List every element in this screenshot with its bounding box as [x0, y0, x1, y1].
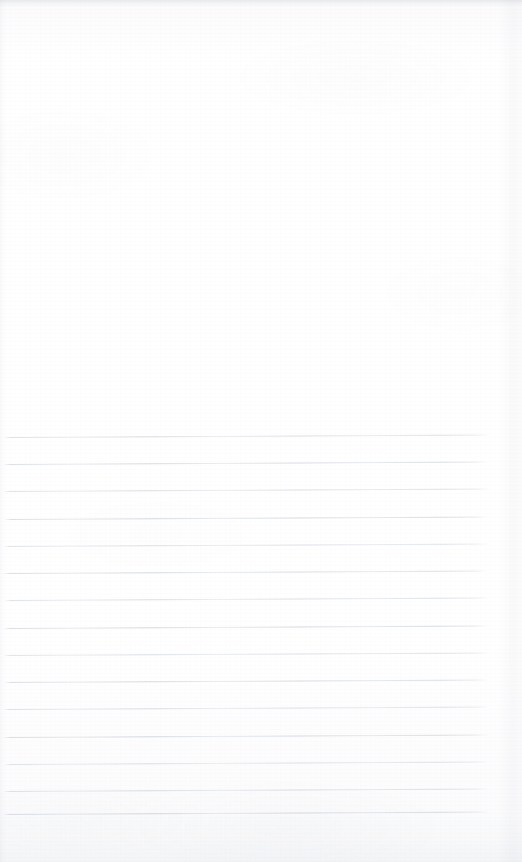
ruled-line — [4, 597, 490, 601]
scan-page-edge-right — [498, 0, 522, 862]
ruled-lines-area — [0, 0, 522, 862]
ruled-line — [3, 788, 489, 792]
ruled-line — [3, 811, 490, 815]
ruled-line — [4, 516, 489, 520]
ruled-line — [4, 679, 489, 683]
ruled-line — [3, 625, 489, 629]
scanned-page — [0, 0, 522, 862]
ruled-line — [3, 543, 490, 547]
ruled-line — [3, 570, 489, 574]
scan-edge-bottom-haze — [0, 816, 522, 862]
ruled-line — [3, 706, 490, 710]
ruled-line — [4, 761, 490, 765]
ruled-line — [3, 461, 489, 465]
ruled-line — [3, 488, 490, 492]
scan-edge-left-shadow — [0, 0, 6, 862]
ruled-line — [3, 652, 490, 656]
ruled-line — [4, 434, 490, 438]
scan-edge-top-shadow — [0, 0, 522, 7]
ruled-line — [3, 734, 489, 738]
